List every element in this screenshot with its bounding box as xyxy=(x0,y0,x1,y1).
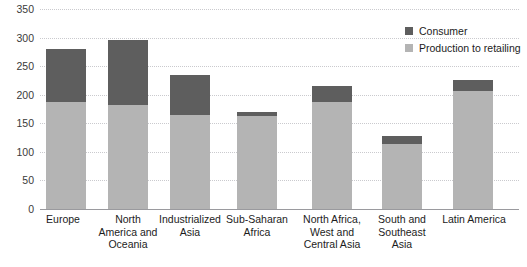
y-axis-tick-350: 350 xyxy=(0,4,34,14)
bar-segment-production-to-retailing[interactable] xyxy=(170,115,210,209)
x-axis-label-industrialized-asia: Industrialized Asia xyxy=(154,213,226,238)
square-swatch-icon xyxy=(405,27,413,35)
x-axis-label-latin-america: Latin America xyxy=(436,213,512,226)
bar-segment-consumer[interactable] xyxy=(170,75,210,115)
y-axis-tick-150: 150 xyxy=(0,118,34,128)
axis-baseline xyxy=(40,209,519,210)
x-axis-label-line: Africa xyxy=(223,226,291,239)
x-axis-label-line: Latin America xyxy=(436,213,512,226)
x-axis-label-north-africa-west-and-central-asia: North Africa, West and Central Asia xyxy=(292,213,372,251)
bar-segment-consumer[interactable] xyxy=(108,40,148,105)
legend-label: Consumer xyxy=(419,24,467,38)
y-axis-tick-50: 50 xyxy=(0,175,34,185)
y-axis-tick-100: 100 xyxy=(0,147,34,157)
page-bottom-edge xyxy=(0,263,527,267)
x-axis-label-line: Southeast xyxy=(368,226,436,239)
square-swatch-icon xyxy=(405,44,413,52)
bar-segment-consumer[interactable] xyxy=(46,49,86,102)
x-axis-label-south-and-southeast-asia: South and Southeast Asia xyxy=(368,213,436,251)
bar-segment-production-to-retailing[interactable] xyxy=(108,105,148,209)
bar-segment-production-to-retailing[interactable] xyxy=(453,91,493,209)
bar-segment-production-to-retailing[interactable] xyxy=(237,116,277,209)
bar-segment-consumer[interactable] xyxy=(237,112,277,116)
x-axis-label-line: Europe xyxy=(28,213,98,226)
x-axis-label-line: Sub-Saharan xyxy=(223,213,291,226)
legend: Consumer Production to retailing xyxy=(405,24,525,58)
y-axis-tick-300: 300 xyxy=(0,33,34,43)
x-axis-label-sub-saharan-africa: Sub-Saharan Africa xyxy=(223,213,291,238)
legend-item-production-to-retailing[interactable]: Production to retailing xyxy=(405,41,525,58)
gridline-350 xyxy=(40,9,519,10)
legend-label: Production to retailing xyxy=(419,41,521,55)
x-axis-label-line: North Africa, xyxy=(292,213,372,226)
y-axis-tick-250: 250 xyxy=(0,61,34,71)
legend-item-consumer[interactable]: Consumer xyxy=(405,24,525,41)
x-axis-label-europe: Europe xyxy=(28,213,98,226)
x-axis-label-line: Asia xyxy=(154,226,226,239)
bar-segment-consumer[interactable] xyxy=(382,136,422,144)
y-axis-tick-200: 200 xyxy=(0,90,34,100)
x-axis-label-line: Industrialized xyxy=(154,213,226,226)
x-axis-labels: Europe North America and Oceania Industr… xyxy=(40,213,519,259)
bar-segment-production-to-retailing[interactable] xyxy=(46,102,86,209)
bar-segment-consumer[interactable] xyxy=(453,80,493,90)
x-axis-label-line: South and xyxy=(368,213,436,226)
x-axis-label-line: Oceania xyxy=(90,238,166,251)
x-axis-label-line: West and xyxy=(292,226,372,239)
bar-segment-production-to-retailing[interactable] xyxy=(312,102,352,209)
y-axis-labels: 350 300 250 200 150 100 50 0 xyxy=(0,0,34,218)
x-axis-label-line: Asia xyxy=(368,238,436,251)
bar-segment-production-to-retailing[interactable] xyxy=(382,144,422,209)
x-axis-label-line: Central Asia xyxy=(292,238,372,251)
bar-segment-consumer[interactable] xyxy=(312,86,352,103)
stacked-bar-chart: 350 300 250 200 150 100 50 0 xyxy=(0,0,527,267)
